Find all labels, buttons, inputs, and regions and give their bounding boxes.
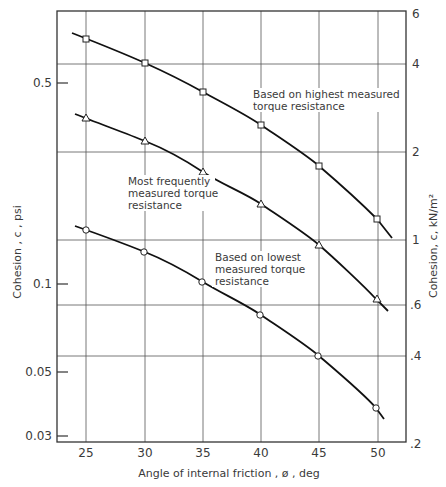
square-marker-icon: [83, 36, 89, 42]
annotation-lowest-line1: Based on lowest: [215, 251, 301, 263]
left-tick-label: 0.05: [25, 365, 52, 379]
square-marker-icon: [142, 60, 148, 66]
triangle-marker-icon: [199, 168, 207, 175]
annotation-highest-line2: torque resistance: [253, 100, 345, 112]
x-tick-label: 50: [370, 446, 385, 460]
right-tick-label: 4: [412, 57, 420, 71]
circle-marker-icon: [83, 227, 89, 233]
right-tick-label: 2: [412, 145, 420, 159]
left-tick-label: 0.5: [33, 76, 52, 90]
annotation-most-frequent-line3: resistance: [128, 199, 182, 211]
right-tick-label: 6: [412, 7, 420, 21]
right-tick-label: .6: [410, 298, 421, 312]
annotation-highest-line1: Based on highest measured: [253, 88, 400, 100]
circle-marker-icon: [141, 249, 147, 255]
left-axis-ticks: [57, 83, 68, 436]
plot-frame: [57, 11, 406, 442]
triangle-marker-icon: [257, 200, 265, 207]
right-y-axis-title: Cohesion, c, kN/m²: [427, 194, 440, 298]
chart: 0.5 0.1 0.05 0.03 6 4 2 1 .6 .4 .2 25 30…: [0, 0, 446, 487]
x-tick-label: 40: [253, 446, 268, 460]
x-tick-label: 45: [311, 446, 326, 460]
left-tick-label: 0.1: [33, 277, 52, 291]
square-marker-icon: [316, 163, 322, 169]
square-marker-icon: [258, 122, 264, 128]
x-tick-label: 30: [137, 446, 152, 460]
left-y-axis-title: Cohesion , c , psi: [11, 205, 24, 298]
square-marker-icon: [374, 216, 380, 222]
left-tick-label: 0.03: [25, 429, 52, 443]
annotation-most-frequent-line1: Most frequently: [128, 175, 210, 187]
square-marker-icon: [200, 89, 206, 95]
x-tick-label: 35: [195, 446, 210, 460]
right-tick-label: .2: [410, 437, 421, 451]
x-tick-label: 25: [78, 446, 93, 460]
circle-marker-icon: [315, 353, 321, 359]
circle-marker-icon: [373, 405, 379, 411]
annotation-lowest-line2: measured torque: [215, 263, 305, 275]
gridlines: [57, 11, 406, 442]
annotation-most-frequent-line2: measured torque: [128, 187, 218, 199]
annotation-lowest-line3: resistance: [215, 275, 269, 287]
x-axis-title: Angle of internal friction , ø , deg: [138, 467, 320, 480]
circle-marker-icon: [257, 312, 263, 318]
right-tick-label: .4: [410, 349, 421, 363]
circle-marker-icon: [199, 279, 205, 285]
right-tick-label: 1: [412, 233, 420, 247]
